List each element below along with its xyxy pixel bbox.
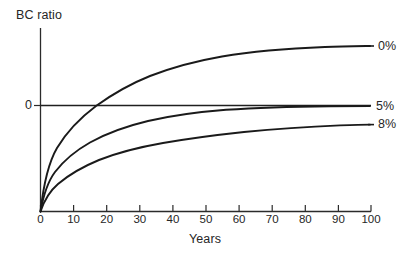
series-label-8pct: 8% [378,117,396,131]
x-tick-label-50: 50 [196,213,216,226]
x-tick-label-40: 40 [163,213,183,226]
x-tick-label-0: 0 [31,213,51,226]
series-label-5pct: 5% [376,99,394,113]
x-tick-label-90: 90 [328,213,348,226]
series-label-0pct: 0% [378,39,396,53]
series-curve-8pct [41,125,371,212]
x-tick-label-10: 10 [64,213,84,226]
series-curve-5pct [41,106,371,211]
series-label-leader-lines [368,46,374,125]
series-curves-group [41,46,371,212]
x-tick-label-20: 20 [97,213,117,226]
axes-group [34,28,371,212]
x-tick-label-80: 80 [295,213,315,226]
bc-ratio-chart: BC ratio 0 [0,0,414,263]
x-tick-label-60: 60 [229,213,249,226]
x-axis-title-wrap: Years [0,232,414,246]
series-curve-0pct [41,46,371,212]
x-tick-label-100: 100 [359,213,383,226]
x-tick-label-70: 70 [262,213,282,226]
x-axis-ticks [41,205,372,212]
x-axis-title: Years [189,232,221,246]
x-tick-label-30: 30 [130,213,150,226]
